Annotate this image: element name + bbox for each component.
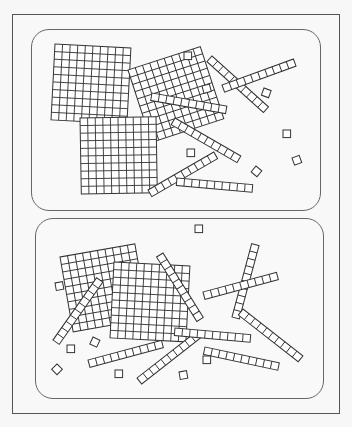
tens-rod <box>148 152 218 197</box>
base-ten-blocks-diagram <box>0 0 352 427</box>
unit-cube <box>184 52 192 60</box>
tens-rod <box>88 340 163 367</box>
unit-cube <box>202 84 211 93</box>
unit-cube <box>203 356 211 364</box>
unit-cube <box>52 364 63 375</box>
hundreds-flat <box>80 117 157 194</box>
panel-top-blocks <box>51 44 302 197</box>
unit-cube <box>55 282 64 291</box>
tens-rod <box>176 178 252 192</box>
unit-cube <box>292 155 302 165</box>
unit-cube <box>261 88 271 98</box>
tens-rod <box>203 347 279 370</box>
unit-cube <box>115 370 123 378</box>
panel-bottom-blocks <box>52 225 303 384</box>
unit-cube <box>283 130 291 138</box>
unit-cube <box>90 337 100 347</box>
unit-cube <box>195 225 203 233</box>
unit-cube <box>67 345 75 353</box>
unit-cube <box>187 149 195 157</box>
unit-cube <box>179 371 188 380</box>
unit-cube <box>251 166 262 177</box>
hundreds-flat <box>51 44 131 124</box>
